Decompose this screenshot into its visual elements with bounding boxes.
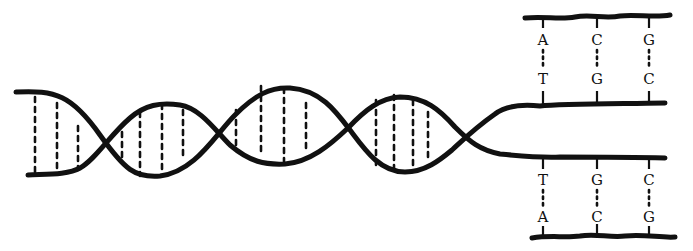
base-upper-3-bottom: C	[641, 71, 657, 87]
base-lower-2-top: G	[589, 172, 605, 188]
base-upper-1-bottom: T	[535, 71, 551, 87]
base-upper-1-top: A	[535, 32, 551, 48]
base-lower-1-top: T	[535, 172, 551, 188]
base-upper-2-top: C	[589, 32, 605, 48]
base-upper-3-top: G	[641, 32, 657, 48]
base-upper-2-bottom: G	[589, 71, 605, 87]
base-lower-3-top: C	[641, 172, 657, 188]
base-lower-2-bottom: C	[589, 209, 605, 225]
base-lower-3-bottom: G	[641, 209, 657, 225]
dna-diagram: A T C G G C T A G C C G	[0, 0, 693, 251]
lower-daughter-bottom-backbone	[532, 235, 675, 238]
helix-base-pair-rungs	[35, 86, 428, 176]
base-lower-1-bottom: A	[535, 209, 551, 225]
